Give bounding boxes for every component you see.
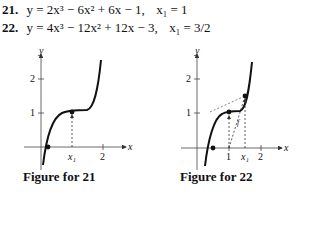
y-axis-label: y — [195, 45, 199, 56]
root-point — [211, 146, 216, 151]
x-tick-1: 1 — [226, 151, 231, 162]
figure-22-caption: Figure for 22 — [180, 169, 252, 185]
root-point — [46, 145, 51, 150]
figure-22-graph — [181, 54, 282, 170]
curve-label-f: f — [237, 118, 239, 127]
x-axis-label: x — [128, 141, 132, 152]
x-tick-x1: x₁ — [68, 151, 76, 162]
figure-21-caption: Figure for 21 — [23, 169, 95, 185]
initial-point — [243, 94, 248, 99]
x-axis-label: x — [284, 142, 288, 153]
y-tick-1: 1 — [30, 107, 35, 118]
x-tick-2: 2 — [100, 151, 105, 162]
x-tick-2: 2 — [258, 151, 263, 162]
initial-point — [70, 110, 75, 115]
y-tick-1: 1 — [186, 107, 191, 118]
y-tick-2: 2 — [30, 73, 35, 84]
x-tick-x1: x₁ — [241, 151, 249, 162]
y-tick-2: 2 — [186, 73, 191, 84]
y-axis-label: y — [39, 45, 43, 56]
x2-point — [227, 110, 232, 115]
